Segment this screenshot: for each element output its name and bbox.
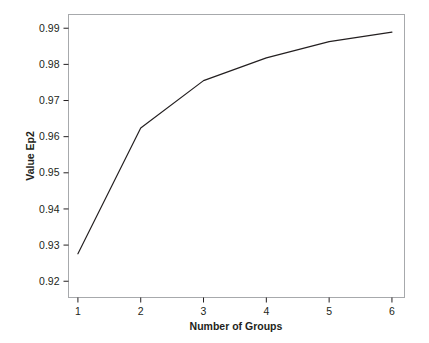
y-tick-label: 0.93 [39,239,60,251]
chart-figure: 0.920.930.940.950.960.970.980.99 123456 … [0,0,429,343]
x-axis-ticks: 123456 [75,298,395,317]
y-tick-label: 0.98 [39,58,60,70]
x-axis-title: Number of Groups [190,320,283,332]
plot-frame [69,15,405,298]
x-tick-label: 3 [201,305,207,317]
x-tick-label: 2 [138,305,144,317]
line-chart: 0.920.930.940.950.960.970.980.99 123456 … [0,0,429,343]
y-tick-label: 0.97 [39,94,60,106]
x-tick-label: 4 [263,305,269,317]
x-tick-label: 5 [326,305,332,317]
y-tick-label: 0.96 [39,130,60,142]
y-axis-ticks: 0.920.930.940.950.960.970.980.99 [39,22,68,287]
y-tick-label: 0.99 [39,22,60,34]
x-tick-label: 1 [75,305,81,317]
y-tick-label: 0.94 [39,203,60,215]
y-axis-title: Value Ep2 [24,131,36,181]
y-tick-label: 0.92 [39,275,60,287]
x-tick-label: 6 [389,305,395,317]
y-tick-label: 0.95 [39,166,60,178]
